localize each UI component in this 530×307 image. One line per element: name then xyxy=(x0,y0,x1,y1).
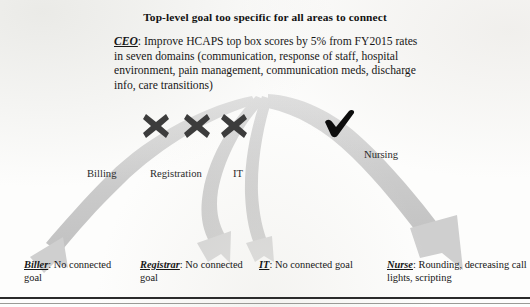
bottom-divider-rule-secondary xyxy=(0,303,530,304)
leaf-goal-registrar: Registrar: No connected goal xyxy=(140,258,252,284)
slide-canvas: Top-level goal too specific for all area… xyxy=(0,0,530,307)
leaf-goal-text-it: No connected goal xyxy=(272,259,353,270)
ceo-goal-block: CEO: Improve HCAPS top box scores by 5% … xyxy=(114,35,426,93)
leaf-role-key-biller: Biller xyxy=(24,259,48,270)
branch-label-it: IT xyxy=(233,168,243,179)
leaf-role-key-nurse: Nurse xyxy=(387,259,413,270)
check-mark-icon-nursing xyxy=(323,109,357,139)
x-mark-icon-it xyxy=(219,111,249,141)
leaf-goal-it: IT: No connected goal xyxy=(259,258,359,271)
leaf-goal-biller: Biller: No connected goal xyxy=(24,258,128,284)
branch-label-registration: Registration xyxy=(150,168,202,179)
ceo-goal-text: Improve HCAPS top box scores by 5% from … xyxy=(114,35,417,92)
branch-label-billing: Billing xyxy=(87,168,116,179)
bottom-divider-rule xyxy=(0,297,530,299)
leaf-role-key-registrar: Registrar xyxy=(140,259,180,270)
x-mark-icon-registration xyxy=(182,111,212,141)
ceo-role-key: CEO xyxy=(114,35,138,48)
branch-label-nursing: Nursing xyxy=(364,149,398,160)
leaf-role-key-it: IT xyxy=(259,259,269,270)
arrow-to-it xyxy=(245,96,274,262)
x-mark-icon-billing xyxy=(141,111,171,141)
arrow-to-nursing xyxy=(268,94,463,270)
leaf-goal-nurse: Nurse: Rounding, decreasing call lights,… xyxy=(387,258,530,284)
page-title: Top-level goal too specific for all area… xyxy=(0,11,530,23)
